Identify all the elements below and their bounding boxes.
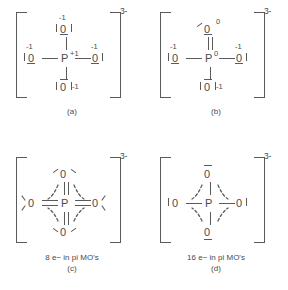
structure-panel-a: 3- P +1 0 -1 0 -1 0 -1 xyxy=(0,0,144,145)
ion-charge-c: 3- xyxy=(120,151,127,161)
bond-p-o-right-c-line2 xyxy=(75,205,91,206)
formal-charge-o-left-a: -1 xyxy=(26,43,33,51)
lone-pair-o-left-under-b xyxy=(171,63,179,64)
atom-o-top-c: 0 xyxy=(60,169,66,180)
lone-pair-o-top-left-a xyxy=(56,24,57,32)
panel-caption-d: 16 e− in pi MO's xyxy=(144,253,288,263)
atom-o-right-c: 0 xyxy=(92,198,98,209)
arc-bottom-left-c xyxy=(48,208,58,221)
bond-p-o-bottom-d xyxy=(210,212,211,225)
ion-charge-d: 3- xyxy=(264,151,271,161)
atom-p-a: P xyxy=(61,53,68,64)
ion-charge-a: 3- xyxy=(120,6,127,16)
bracket-right-a xyxy=(110,12,121,98)
atom-o-left-d: 0 xyxy=(172,198,178,209)
formal-charge-o-top-a: -1 xyxy=(59,14,66,22)
ion-charge-b: 3- xyxy=(264,6,271,16)
bond-p-o-bottom-c-line2 xyxy=(68,212,69,225)
bond-p-o-top-c-line1 xyxy=(64,182,65,195)
lone-pair-o-bottom-left-b xyxy=(200,82,201,90)
atom-o-right-d: 0 xyxy=(236,198,242,209)
formal-charge-o-left-b: -1 xyxy=(170,43,177,51)
structure-panel-c: 3- P 0 0 xyxy=(0,145,144,290)
lone-pair-o-bottom-right-a xyxy=(71,82,72,90)
lone-pair-o-bottom-left-a xyxy=(56,82,57,90)
bond-p-o-left-d xyxy=(186,203,202,204)
panel-label-c: (c) xyxy=(0,264,144,274)
arc-bottom-right-c xyxy=(74,208,84,221)
lone-pair-o-bottom-left-c xyxy=(53,228,59,233)
panel-label-b: (b) xyxy=(144,107,288,117)
lewis-core-b: P 0 0 0 0 -1 0 -1 0 -1 xyxy=(166,10,254,98)
atom-o-top-d: 0 xyxy=(204,169,210,180)
bond-p-o-left-a xyxy=(42,58,58,59)
bracket-right-c xyxy=(110,157,121,243)
atom-o-bottom-b: 0 xyxy=(204,82,210,93)
lone-pair-o-bottom-under-d xyxy=(204,239,212,240)
lone-pair-o-left-outer-b xyxy=(168,53,169,61)
lone-pair-o-top-under-b xyxy=(204,34,212,35)
bracket-right-d xyxy=(254,157,265,243)
arc-bottom-left-d xyxy=(192,208,202,221)
atom-p-b: P xyxy=(205,53,212,64)
lone-pair-o-right-lower-c xyxy=(101,205,106,211)
lone-pair-o-bottom-over-a xyxy=(60,79,68,80)
lone-pair-o-left-lower-c xyxy=(21,205,26,211)
structure-panel-b: 3- P 0 0 0 0 -1 0 -1 xyxy=(144,0,288,145)
lone-pair-o-right-outer-a xyxy=(102,53,103,61)
bond-p-o-right-b xyxy=(219,58,235,59)
lone-pair-o-right-outer-b xyxy=(246,53,247,61)
formal-charge-o-right-a: -1 xyxy=(91,43,98,51)
bond-p-o-top-c-line2 xyxy=(68,182,69,195)
formal-charge-p-a: +1 xyxy=(70,50,79,58)
formal-charge-o-bottom-b: -1 xyxy=(216,83,223,91)
atom-o-bottom-a: 0 xyxy=(60,82,66,93)
bond-p-o-top-b-line2 xyxy=(212,37,213,50)
bond-p-o-top-a xyxy=(66,37,67,50)
lone-pair-o-left-upper-c xyxy=(21,195,26,201)
formal-charge-p-b: 0 xyxy=(214,50,218,58)
lone-pair-o-right-under-a xyxy=(91,63,99,64)
formal-charge-o-right-b: -1 xyxy=(235,43,242,51)
atom-p-d: P xyxy=(205,198,212,209)
arc-top-right-c xyxy=(74,185,84,199)
bond-p-o-left-c-line1 xyxy=(42,200,58,201)
lone-pair-o-left-under-a xyxy=(27,63,35,64)
atom-p-c: P xyxy=(61,198,68,209)
atom-o-bottom-c: 0 xyxy=(60,227,66,238)
lone-pair-o-left-outer-a xyxy=(24,53,25,61)
lone-pair-o-right-upper-c xyxy=(101,195,106,201)
bracket-right-b xyxy=(254,12,265,98)
bond-p-o-top-d xyxy=(210,182,211,195)
bond-p-o-right-d xyxy=(219,203,235,204)
lone-pair-o-top-right-c xyxy=(71,169,77,174)
bond-p-o-left-b xyxy=(186,58,202,59)
lone-pair-o-top-left-c xyxy=(53,169,59,174)
arc-top-right-d xyxy=(218,185,228,199)
lone-pair-o-bottom-right-c xyxy=(71,228,77,233)
lone-pair-o-top-over-d xyxy=(204,165,212,166)
bond-p-o-right-c-line1 xyxy=(75,200,91,201)
arc-bottom-right-d xyxy=(218,208,228,221)
atom-o-left-c: 0 xyxy=(28,198,34,209)
lone-pair-o-top-under-a xyxy=(60,34,68,35)
lewis-core-d: P 0 0 0 0 xyxy=(166,155,254,243)
lone-pair-o-top-left-b xyxy=(197,23,203,28)
arc-top-left-d xyxy=(192,185,202,199)
lewis-core-c: P 0 0 0 0 xyxy=(22,155,110,243)
formal-charge-o-bottom-a: -1 xyxy=(72,83,79,91)
panel-label-a: (a) xyxy=(0,107,144,117)
phosphate-resonance-figure: 3- P +1 0 -1 0 -1 0 -1 xyxy=(0,0,288,290)
bond-p-o-bottom-c-line1 xyxy=(64,212,65,225)
lone-pair-o-left-outer-d xyxy=(168,198,169,206)
bond-p-o-top-b-line1 xyxy=(208,37,209,50)
lone-pair-o-bottom-right-b xyxy=(215,82,216,90)
panel-caption-c: 8 e− in pi MO's xyxy=(0,253,144,263)
panel-label-d: (d) xyxy=(144,264,288,274)
atom-o-bottom-d: 0 xyxy=(204,227,210,238)
lone-pair-o-top-right-a xyxy=(71,24,72,32)
arc-top-left-c xyxy=(48,185,58,199)
formal-charge-o-top-b: 0 xyxy=(216,18,220,26)
structure-panel-d: 3- P 0 0 0 0 xyxy=(144,145,288,290)
lewis-core-a: P +1 0 -1 0 -1 0 -1 0 -1 xyxy=(22,10,110,98)
